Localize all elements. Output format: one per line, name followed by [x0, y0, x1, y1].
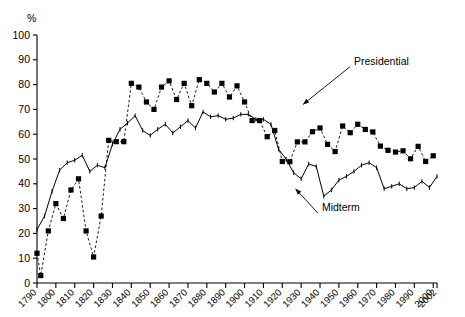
data-point-presidential	[302, 139, 307, 144]
y-axis-tick-label: 70	[18, 103, 30, 115]
data-point-presidential	[370, 129, 375, 134]
data-point-presidential	[265, 134, 270, 139]
y-axis-tick-label: 100	[12, 29, 30, 41]
data-point-presidential	[151, 107, 156, 112]
data-point-presidential	[416, 144, 421, 149]
series-line-midterm	[37, 112, 437, 230]
x-axis-tick-label: 1820	[72, 287, 95, 310]
annotation-arrow-presidential	[303, 67, 350, 105]
data-point-presidential	[61, 216, 66, 221]
x-axis-tick-label: 1950	[318, 287, 341, 310]
data-point-presidential	[197, 77, 202, 82]
data-point-presidential	[34, 251, 39, 256]
x-axis-tick-label: 1800	[35, 287, 58, 310]
data-point-presidential	[317, 125, 322, 130]
data-point-presidential	[219, 81, 224, 86]
data-point-presidential	[348, 130, 353, 135]
data-point-presidential	[129, 81, 134, 86]
y-axis-tick-label: 60	[18, 128, 30, 140]
data-point-presidential	[295, 139, 300, 144]
annotation-label-midterm: Midterm	[322, 201, 360, 213]
data-point-presidential	[204, 81, 209, 86]
data-point-presidential	[189, 103, 194, 108]
y-axis: 0102030405060708090100	[12, 29, 37, 289]
data-point-presidential	[174, 97, 179, 102]
data-point-presidential	[121, 139, 126, 144]
x-axis: 1790180018101820183018401850186018701880…	[16, 283, 439, 309]
data-point-presidential	[106, 138, 111, 143]
x-axis-tick-label: 1840	[110, 287, 133, 310]
x-axis-tick-label: 1970	[355, 287, 378, 310]
y-axis-unit-label: %	[27, 12, 36, 24]
y-axis-tick-label: 90	[18, 53, 30, 65]
x-axis-tick-label: 1830	[91, 287, 114, 310]
data-series-group	[34, 77, 437, 278]
x-axis-tick-label: 2002	[416, 287, 439, 310]
data-point-presidential	[159, 84, 164, 89]
data-point-presidential	[83, 228, 88, 233]
x-axis-tick-label: 1890	[204, 287, 227, 310]
x-axis-tick-label: 1910	[242, 287, 265, 310]
data-point-presidential	[333, 149, 338, 154]
y-axis-tick-label: 10	[18, 252, 30, 264]
data-point-presidential	[408, 156, 413, 161]
data-point-presidential	[144, 99, 149, 104]
x-axis-tick-label: 1900	[223, 287, 246, 310]
turnout-chart: 0102030405060708090100 17901800181018201…	[0, 0, 465, 317]
data-point-presidential	[363, 127, 368, 132]
data-point-presidential	[182, 81, 187, 86]
x-axis-tick-label: 1850	[129, 287, 152, 310]
data-point-presidential	[385, 148, 390, 153]
y-axis-tick-label: 40	[18, 177, 30, 189]
data-point-presidential	[257, 118, 262, 123]
data-point-presidential	[242, 99, 247, 104]
chart-canvas: 0102030405060708090100 17901800181018201…	[0, 0, 465, 317]
data-point-presidential	[340, 123, 345, 128]
x-axis-tick-label: 1980	[374, 287, 397, 310]
data-point-presidential	[355, 122, 360, 127]
data-point-presidential	[280, 159, 285, 164]
data-point-presidential	[136, 84, 141, 89]
data-point-presidential	[91, 254, 96, 259]
data-point-presidential	[393, 149, 398, 154]
data-point-presidential	[310, 129, 315, 134]
annotation-label-presidential: Presidential	[354, 55, 409, 67]
data-point-presidential	[325, 142, 330, 147]
x-axis-tick-label: 1810	[53, 287, 76, 310]
data-point-presidential	[76, 176, 81, 181]
x-axis-tick-label: 1860	[148, 287, 171, 310]
data-point-presidential	[249, 118, 254, 123]
x-axis-tick-label: 1790	[16, 287, 39, 310]
data-point-presidential	[212, 89, 217, 94]
y-axis-tick-label: 20	[18, 227, 30, 239]
data-point-presidential	[378, 144, 383, 149]
series-line-presidential	[37, 80, 433, 276]
x-axis-tick-label: 1990	[393, 287, 416, 310]
data-point-presidential	[423, 159, 428, 164]
data-point-presidential	[53, 201, 58, 206]
data-point-presidential	[227, 94, 232, 99]
data-point-presidential	[234, 83, 239, 88]
data-point-presidential	[46, 228, 51, 233]
y-axis-tick-label: 80	[18, 78, 30, 90]
x-axis-tick-label: 1940	[299, 287, 322, 310]
x-axis-tick-label: 1930	[280, 287, 303, 310]
x-axis-tick-label: 1920	[261, 287, 284, 310]
data-point-presidential	[68, 187, 73, 192]
x-axis-tick-label: 1960	[336, 287, 359, 310]
data-point-presidential	[99, 213, 104, 218]
data-point-presidential	[431, 153, 436, 158]
data-point-presidential	[38, 273, 43, 278]
x-axis-tick-label: 1880	[185, 287, 208, 310]
y-axis-tick-label: 30	[18, 202, 30, 214]
y-axis-tick-label: 50	[18, 153, 30, 165]
data-point-presidential	[400, 148, 405, 153]
x-axis-tick-label: 1870	[167, 287, 190, 310]
data-point-presidential	[166, 78, 171, 83]
